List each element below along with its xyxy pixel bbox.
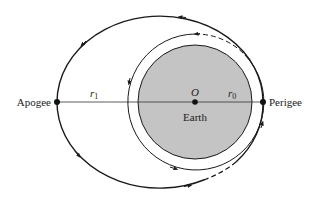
center-point (192, 99, 198, 105)
orbit-diagram: Apogee Perigee Earth O r1 r0 (0, 0, 315, 201)
circular-orbit-arrow-bottom-icon (170, 167, 176, 169)
r1-label: r1 (90, 87, 98, 101)
elliptical-orbit-arrow-right-icon (261, 123, 263, 128)
elliptical-orbit-arrow-top-icon (180, 17, 186, 18)
apogee-point (54, 99, 60, 105)
earth-label: Earth (183, 111, 207, 123)
apogee-label: Apogee (17, 96, 51, 108)
circular-orbit-arrow-top-icon (196, 34, 200, 35)
elliptical-orbit-dashed (205, 162, 236, 180)
circular-orbit-arrow-left-icon (129, 78, 130, 83)
elliptical-orbit-arrow-lower-left-icon (75, 151, 79, 156)
perigee-label: Perigee (269, 96, 302, 108)
center-label: O (191, 86, 199, 98)
perigee-point (260, 99, 266, 105)
